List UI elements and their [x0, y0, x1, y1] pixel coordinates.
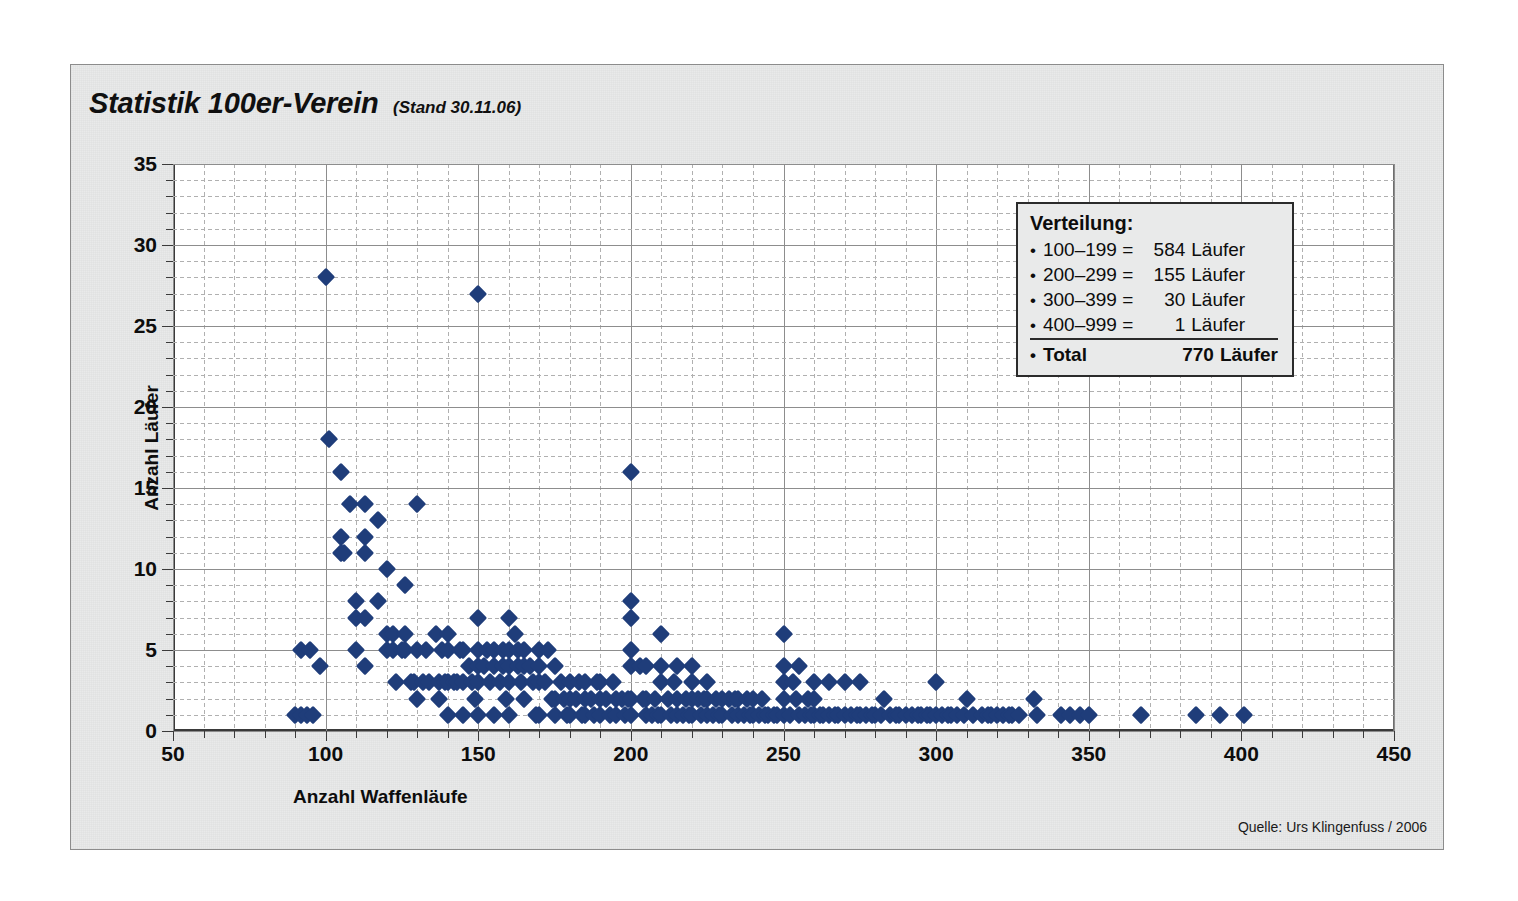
tick-x [997, 731, 998, 738]
data-point-diamond [408, 689, 426, 707]
x-tick-label: 250 [766, 742, 801, 766]
data-point-diamond [1235, 706, 1253, 724]
y-tick-label: 35 [134, 152, 157, 176]
data-point-diamond [515, 689, 533, 707]
data-point-diamond [347, 641, 365, 659]
tick-y [166, 472, 173, 473]
data-point-diamond [356, 527, 374, 545]
gridline-x-major [784, 164, 785, 731]
gridline-x-minor [204, 164, 205, 731]
tick-y [162, 164, 173, 165]
gridline-x-minor [997, 164, 998, 731]
tick-y [166, 520, 173, 521]
tick-y [166, 456, 173, 457]
tick-x [722, 731, 723, 738]
tick-y [166, 229, 173, 230]
legend-bullet-icon: • [1030, 267, 1036, 284]
gridline-y-major [173, 164, 1394, 165]
data-point-diamond [1211, 706, 1229, 724]
tick-y [166, 310, 173, 311]
data-point-diamond [652, 625, 670, 643]
gridline-x-minor [753, 164, 754, 731]
gridline-x-minor [265, 164, 266, 731]
gridline-x-minor [845, 164, 846, 731]
legend-box: Verteilung: •100–199 =584Läufer•200–299 … [1016, 202, 1294, 377]
x-tick-label: 300 [919, 742, 954, 766]
tick-y [166, 601, 173, 602]
gridline-x-minor [1302, 164, 1303, 731]
gridline-y-minor [173, 456, 1394, 457]
data-point-diamond [368, 592, 386, 610]
data-point-diamond [1131, 706, 1149, 724]
legend-total-row: •Total770Läufer [1030, 342, 1278, 367]
data-point-diamond [377, 560, 395, 578]
legend-range: 300–399 = [1043, 287, 1133, 312]
tick-x [784, 731, 785, 741]
data-point-diamond [356, 657, 374, 675]
tick-y [166, 391, 173, 392]
legend-row: •400–999 =1Läufer [1030, 312, 1278, 340]
data-point-diamond [774, 625, 792, 643]
x-tick-label: 200 [613, 742, 648, 766]
data-point-diamond [957, 689, 975, 707]
tick-x [661, 731, 662, 738]
legend-count: 30 [1133, 287, 1185, 312]
tick-x [1363, 731, 1364, 738]
legend-count: 584 [1133, 237, 1185, 262]
tick-x [1333, 731, 1334, 738]
gridline-x-minor [1363, 164, 1364, 731]
legend-total-count: 770 [1160, 342, 1214, 367]
gridline-y-minor [173, 585, 1394, 586]
tick-y [166, 423, 173, 424]
legend-count: 155 [1133, 262, 1185, 287]
tick-x [1028, 731, 1029, 738]
tick-x [1180, 731, 1181, 738]
gridline-y-minor [173, 472, 1394, 473]
legend-total-label: Total [1043, 342, 1160, 367]
tick-x [600, 731, 601, 738]
data-point-diamond [698, 673, 716, 691]
data-point-diamond [396, 576, 414, 594]
legend-bullet-icon: • [1030, 317, 1036, 334]
gridline-x-minor [661, 164, 662, 731]
data-point-diamond [875, 689, 893, 707]
tick-x [417, 731, 418, 738]
gridline-x-minor [722, 164, 723, 731]
tick-x [967, 731, 968, 738]
data-point-diamond [466, 689, 484, 707]
tick-y [166, 504, 173, 505]
data-point-diamond [469, 284, 487, 302]
tick-x [448, 731, 449, 738]
tick-x [753, 731, 754, 738]
page-title: Statistik 100er-Verein [89, 87, 379, 119]
gridline-x-major [173, 164, 174, 731]
tick-x [1211, 731, 1212, 738]
legend-total-unit: Läufer [1220, 342, 1278, 367]
tick-x [356, 731, 357, 738]
y-axis-title: Anzahl Läufer [141, 385, 163, 511]
legend-unit: Läufer [1191, 262, 1245, 287]
tick-x [295, 731, 296, 738]
tick-y [166, 634, 173, 635]
tick-y [166, 261, 173, 262]
chart-frame: Statistik 100er-Verein (Stand 30.11.06) … [70, 64, 1444, 850]
data-point-diamond [497, 689, 515, 707]
tick-y [162, 731, 173, 732]
tick-x [845, 731, 846, 738]
legend-row: •200–299 =155Läufer [1030, 262, 1278, 287]
data-point-diamond [347, 592, 365, 610]
tick-y [166, 375, 173, 376]
data-point-diamond [664, 673, 682, 691]
tick-x [570, 731, 571, 738]
legend-unit: Läufer [1191, 287, 1245, 312]
tick-x [1058, 731, 1059, 738]
data-point-diamond [356, 495, 374, 513]
tick-y [166, 196, 173, 197]
data-point-diamond [356, 544, 374, 562]
tick-x [1394, 731, 1395, 741]
gridline-y-minor [173, 520, 1394, 521]
y-tick-label: 5 [145, 638, 157, 662]
gridline-x-minor [1333, 164, 1334, 731]
x-tick-label: 350 [1071, 742, 1106, 766]
legend-row: •300–399 =30Läufer [1030, 287, 1278, 312]
